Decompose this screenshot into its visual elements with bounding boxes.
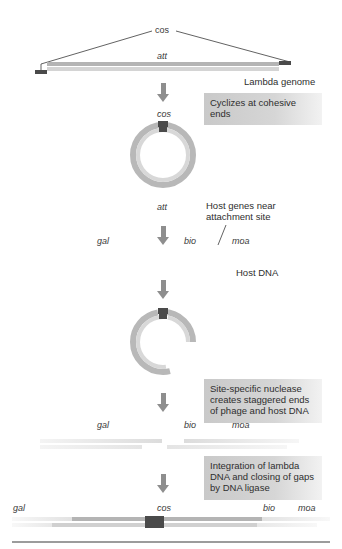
host-right-top (184, 439, 299, 443)
gene-gal-2: gal (97, 420, 109, 430)
step-box-nuclease: Site-specific nuclease creates staggered… (204, 379, 322, 423)
att-label-circle1: att (157, 202, 167, 212)
arrow-down-4 (161, 393, 166, 405)
integrated-host-right-bottom (257, 523, 317, 527)
lambda-insert-top (72, 517, 262, 521)
gene-gal-1: gal (97, 236, 109, 246)
integrated-host-right-top (262, 517, 330, 521)
gene-moa-1: moa (232, 236, 250, 246)
arrow-down-2 (161, 226, 166, 238)
cos-label-integrated: cos (157, 503, 171, 513)
cos-end-left (35, 70, 47, 74)
gene-bio-3: bio (263, 503, 275, 513)
host-genes-caption: Host genes near attachment site (206, 200, 306, 222)
host-left-bottom (40, 445, 142, 449)
integrated-host-left-bottom (12, 523, 52, 527)
integrated-host-left-top (12, 517, 72, 521)
gene-bio-2: bio (184, 420, 196, 430)
arrow-down-1 (161, 83, 166, 95)
cos-label-top: cos (155, 25, 169, 35)
arrow-down-3 (161, 280, 166, 292)
strand-bottom (47, 67, 279, 71)
gene-bio-1: bio (184, 236, 196, 246)
lambda-genome-caption: Lambda genome (244, 76, 315, 87)
strand-top (47, 62, 279, 66)
cos-label-circle1: cos (157, 109, 171, 119)
step-box-cyclizes: Cyclizes at cohesive ends (204, 93, 322, 125)
host-right-bottom (167, 445, 287, 449)
cos-integrated (145, 516, 164, 528)
arrow-down-5 (161, 474, 166, 486)
host-left-top (40, 439, 162, 443)
gene-moa-2: moa (232, 420, 250, 430)
cos-end-right (279, 61, 291, 65)
step-box-integration: Integration of lambda DNA and closing of… (204, 456, 322, 500)
gene-gal-3: gal (13, 503, 25, 513)
gene-moa-3: moa (298, 503, 316, 513)
att-label-top: att (157, 51, 167, 61)
host-dna-caption: Host DNA (236, 267, 278, 278)
